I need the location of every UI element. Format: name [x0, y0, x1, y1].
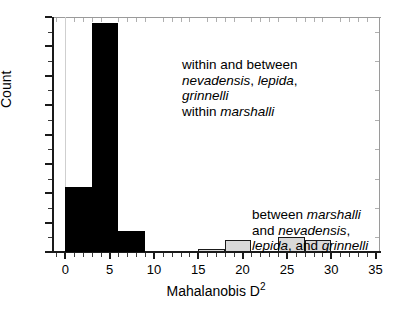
- top-axis-tick-minor: [269, 18, 270, 22]
- x-axis-title-exponent: 2: [260, 281, 266, 292]
- top-axis-tick-minor: [83, 18, 84, 22]
- species-name: lepida: [258, 73, 294, 88]
- top-axis-tick-minor: [127, 18, 128, 22]
- annotation-line: within and between: [182, 57, 298, 73]
- histogram-bar: [65, 187, 92, 252]
- x-tick-minor: [118, 253, 119, 257]
- top-axis-tick-minor: [358, 18, 359, 22]
- x-tick-label: 5: [90, 263, 130, 276]
- annotation-text: ,: [347, 223, 351, 238]
- x-tick-minor: [225, 253, 226, 257]
- annotation-line: lepida, and grinnelli: [252, 238, 368, 254]
- annotation-line: between marshalli: [252, 207, 368, 223]
- x-tick-major: [330, 253, 332, 259]
- x-tick-minor: [189, 253, 190, 257]
- top-axis-tick-minor: [118, 18, 119, 22]
- x-tick-minor: [296, 253, 297, 257]
- y-axis-spine: [52, 17, 54, 253]
- y-tick-major: [45, 75, 52, 77]
- x-tick-minor: [358, 253, 359, 257]
- x-tick-minor: [278, 253, 279, 257]
- x-tick-minor: [234, 253, 235, 257]
- y-tick-minor: [48, 61, 52, 62]
- x-tick-label: 0: [45, 263, 85, 276]
- annotation-text: between: [252, 207, 307, 222]
- x-tick-minor: [181, 253, 182, 257]
- x-tick-minor: [145, 253, 146, 257]
- x-tick-minor: [367, 253, 368, 257]
- x-tick-minor: [269, 253, 270, 257]
- x-tick-major: [153, 253, 155, 259]
- top-axis-tick-minor: [136, 18, 137, 22]
- top-axis-tick-minor: [189, 18, 190, 22]
- y-tick-major: [45, 163, 52, 165]
- y-tick-major: [45, 16, 52, 18]
- top-axis-tick-minor: [92, 18, 93, 22]
- top-axis-tick-minor: [349, 18, 350, 22]
- y-tick-major: [45, 192, 52, 194]
- annotation-text: ,: [250, 73, 258, 88]
- annotation-text: within and between: [182, 57, 298, 72]
- annotation-line: grinnelli: [182, 88, 298, 104]
- top-axis-tick-minor: [234, 18, 235, 22]
- x-tick-label: 25: [267, 263, 307, 276]
- histogram-bar: [118, 231, 145, 252]
- y-tick-minor: [48, 149, 52, 150]
- x-tick-label: 15: [178, 263, 218, 276]
- y-tick-minor: [48, 208, 52, 209]
- x-tick-minor: [322, 253, 323, 257]
- top-axis-tick-minor: [305, 18, 306, 22]
- plot-frame-right: [379, 17, 380, 253]
- x-tick-label: 20: [223, 263, 263, 276]
- right-axis-tick-minor: [375, 208, 379, 209]
- top-axis-tick-minor: [101, 18, 102, 22]
- y-tick-major: [45, 104, 52, 106]
- top-axis-tick-minor: [181, 18, 182, 22]
- top-axis-tick-minor: [296, 18, 297, 22]
- top-axis-tick-minor: [322, 18, 323, 22]
- x-axis-title: Mahalanobis D2: [52, 283, 380, 299]
- right-axis-tick-minor: [375, 32, 379, 33]
- top-axis-tick-minor: [216, 18, 217, 22]
- x-tick-minor: [136, 253, 137, 257]
- species-name: nevadensis: [182, 73, 250, 88]
- y-tick-minor: [48, 120, 52, 121]
- x-tick-minor: [56, 253, 57, 257]
- right-axis-tick-minor: [375, 61, 379, 62]
- y-tick-major: [45, 251, 52, 253]
- x-tick-minor: [349, 253, 350, 257]
- top-axis-tick-minor: [367, 18, 368, 22]
- x-tick-minor: [260, 253, 261, 257]
- x-tick-label: 35: [356, 263, 396, 276]
- top-axis-tick-minor: [225, 18, 226, 22]
- x-tick-minor: [163, 253, 164, 257]
- x-tick-minor: [314, 253, 315, 257]
- x-tick-major: [109, 253, 111, 259]
- species-name: lepida: [252, 238, 288, 253]
- species-name: marshalli: [220, 104, 274, 119]
- right-axis-tick-minor: [375, 149, 379, 150]
- x-tick-minor: [92, 253, 93, 257]
- top-axis-tick-minor: [314, 18, 315, 22]
- x-tick-minor: [207, 253, 208, 257]
- top-axis-tick-minor: [340, 18, 341, 22]
- x-tick-label: 10: [134, 263, 174, 276]
- x-tick-major: [375, 253, 377, 259]
- annotation-within-group: within and betweennevadensis, lepida,gri…: [182, 57, 298, 119]
- y-tick-minor: [48, 32, 52, 33]
- histogram-bar: [225, 240, 252, 252]
- annotation-line: and nevadensis,: [252, 223, 368, 239]
- annotation-text: and: [252, 223, 278, 238]
- species-name: grinnelli: [182, 88, 229, 103]
- annotation-line: nevadensis, lepida,: [182, 73, 298, 89]
- top-axis-tick-minor: [207, 18, 208, 22]
- top-axis-tick-minor: [172, 18, 173, 22]
- right-axis-tick-minor: [375, 237, 379, 238]
- x-tick-minor: [216, 253, 217, 257]
- x-tick-major: [286, 253, 288, 259]
- top-axis-tick-minor: [74, 18, 75, 22]
- x-axis-title-text: Mahalanobis D: [167, 283, 260, 299]
- species-name: grinnelli: [322, 238, 369, 253]
- x-tick-minor: [340, 253, 341, 257]
- top-axis-tick-minor: [251, 18, 252, 22]
